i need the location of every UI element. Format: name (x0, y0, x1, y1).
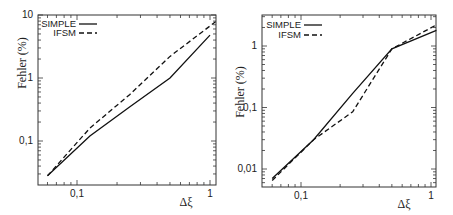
left-xtick-0.1: 0,1 (70, 188, 84, 199)
left-series-simple (48, 35, 211, 176)
left-x-axis-title: Δξ (179, 195, 193, 209)
right-y-axis-title: Fehler (%) (233, 66, 247, 118)
left-ytick-0.1: 0,1 (19, 135, 33, 146)
right-xtick-1: 1 (428, 190, 434, 201)
right-xtick-0.1: 0,1 (294, 190, 308, 201)
left-chart: 10 1 0,1 0,1 1 Δξ Fehler (%) SIMPLE IFSM (15, 9, 216, 209)
left-xtick-1: 1 (207, 188, 213, 199)
left-legend: SIMPLE IFSM (41, 18, 97, 38)
right-ytick-0.01: 0,01 (238, 163, 258, 174)
figure: 10 1 0,1 0,1 1 Δξ Fehler (%) SIMPLE IFSM… (0, 0, 453, 215)
left-legend-ifsm-label: IFSM (53, 27, 76, 38)
right-legend: SIMPLE IFSM (266, 19, 322, 40)
right-ytick-1: 1 (251, 40, 257, 51)
left-y-axis-title: Fehler (%) (15, 37, 29, 89)
right-legend-ifsm-label: IFSM (278, 29, 301, 40)
left-ytick-10: 10 (22, 9, 34, 20)
right-x-axis-title: Δξ (397, 197, 411, 211)
right-chart: 1 0,1 0,01 0,1 1 Δξ Fehler (%) SIMPLE IF… (233, 15, 436, 211)
right-series-ifsm (272, 25, 436, 181)
